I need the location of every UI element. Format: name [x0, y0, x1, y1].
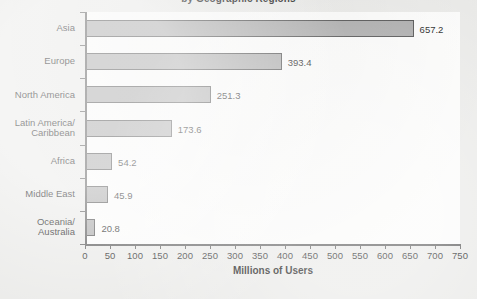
x-axis-tick-label: 150 [152, 250, 168, 261]
x-axis-tick-label: 450 [302, 250, 318, 261]
x-axis-tick-label: 250 [202, 250, 218, 261]
x-axis-tick-label: 600 [377, 250, 393, 261]
x-axis-tick-label: 0 [82, 250, 87, 261]
x-axis-tick [210, 245, 211, 249]
x-axis-tick [460, 245, 461, 249]
x-axis-tick [160, 245, 161, 249]
y-axis-tick [80, 78, 85, 79]
x-axis-tick [435, 245, 436, 249]
bar-value-label: 45.9 [114, 190, 133, 201]
y-axis-tick [80, 111, 85, 112]
x-axis-title: Millions of Users [85, 265, 461, 276]
x-axis-tick [185, 245, 186, 249]
x-axis-tick-label: 50 [105, 250, 116, 261]
y-axis-tick [80, 12, 85, 13]
bar-value-label: 251.3 [217, 90, 241, 101]
y-axis-tick [80, 244, 85, 245]
bar-value-label: 657.2 [420, 24, 444, 35]
x-axis-tick-label: 200 [177, 250, 193, 261]
x-axis-tick-label: 650 [402, 250, 418, 261]
x-axis-tick-label: 500 [327, 250, 343, 261]
bar [85, 86, 211, 103]
x-axis-tick-label: 750 [452, 250, 468, 261]
x-axis-tick [85, 245, 86, 249]
x-axis-tick [110, 245, 111, 249]
category-label: North America [15, 90, 75, 101]
bar-value-label: 393.4 [288, 57, 312, 68]
x-axis-tick-label: 550 [352, 250, 368, 261]
bar-chart: by Geographic Regions 657.2393.4251.3173… [0, 0, 477, 299]
bar [85, 186, 108, 203]
bar-value-label: 54.2 [118, 157, 137, 168]
x-axis-tick [360, 245, 361, 249]
x-axis-tick [335, 245, 336, 249]
bar [85, 53, 282, 70]
x-axis-line [85, 244, 461, 246]
bar [85, 219, 95, 236]
y-axis-tick [80, 211, 85, 212]
x-axis-tick [260, 245, 261, 249]
bar-value-label: 20.8 [101, 223, 120, 234]
category-label: Oceania/Australia [37, 217, 75, 238]
bar-value-label: 173.6 [178, 124, 202, 135]
chart-title: by Geographic Regions [0, 0, 477, 4]
x-axis-tick [135, 245, 136, 249]
x-axis-tick-label: 350 [252, 250, 268, 261]
category-label: Latin America/Caribbean [15, 118, 75, 139]
y-axis-tick [80, 45, 85, 46]
category-label: Middle East [25, 189, 75, 200]
y-axis-tick [80, 145, 85, 146]
x-axis-tick [285, 245, 286, 249]
x-axis-tick [410, 245, 411, 249]
category-label: Africa [51, 156, 75, 167]
y-axis-tick [80, 178, 85, 179]
x-axis-tick-label: 700 [427, 250, 443, 261]
x-axis-tick-label: 100 [127, 250, 143, 261]
bar [85, 20, 414, 37]
x-axis-tick-label: 300 [227, 250, 243, 261]
bar [85, 120, 172, 137]
x-axis-tick [385, 245, 386, 249]
x-axis-tick [235, 245, 236, 249]
bar [85, 153, 112, 170]
x-axis-tick [310, 245, 311, 249]
y-axis-line [85, 12, 87, 245]
x-axis-tick-label: 400 [277, 250, 293, 261]
category-label: Europe [44, 56, 75, 67]
category-label: Asia [57, 23, 75, 34]
